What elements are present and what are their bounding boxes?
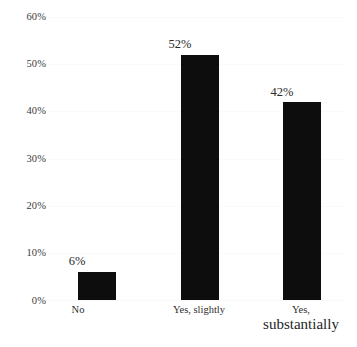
y-tick-label-10: 10% [2, 248, 46, 259]
gridline-0 [48, 300, 345, 301]
y-tick-label-60: 60% [2, 12, 46, 23]
x-axis-label-yes-substantially: Yes, substantially [245, 303, 357, 334]
bar-value-label-yes-substantially: 42% [263, 86, 301, 99]
y-tick-label-20: 20% [2, 201, 46, 212]
x-axis-label-no: No [48, 303, 108, 316]
bar-value-label-no: 6% [58, 255, 96, 268]
x-axis-label-yes-substantially-line-2: substantially [245, 316, 357, 333]
bar-chart: 60% 50% 40% 30% 20% 10% 0% 6% 52% 42% No… [0, 0, 357, 347]
x-axis-label-yes-substantially-line-1: Yes, [245, 303, 357, 316]
x-axis-label-no-line-1: No [48, 303, 108, 316]
gridline-60 [48, 17, 345, 18]
bar-yes-slightly[interactable] [181, 55, 219, 300]
bar-value-label-yes-slightly: 52% [161, 38, 199, 51]
x-axis-label-yes-slightly-line-1: Yes, slightly [151, 303, 247, 316]
bar-yes-substantially[interactable] [283, 102, 321, 300]
x-axis-label-yes-slightly: Yes, slightly [151, 303, 247, 316]
bar-no[interactable] [78, 272, 116, 300]
y-tick-label-40: 40% [2, 106, 46, 117]
y-axis: 60% 50% 40% 30% 20% 10% 0% [0, 0, 46, 347]
y-tick-label-50: 50% [2, 59, 46, 70]
y-tick-label-0: 0% [2, 296, 46, 307]
y-tick-label-30: 30% [2, 154, 46, 165]
